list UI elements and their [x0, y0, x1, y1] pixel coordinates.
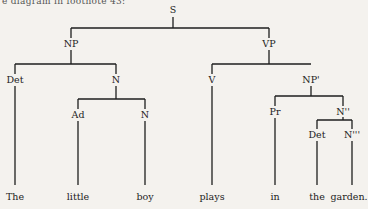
- node-n: N: [112, 75, 120, 85]
- node-v: V: [209, 75, 216, 85]
- leaf-the: The: [6, 192, 24, 202]
- node-n-sub: N: [141, 110, 149, 120]
- node-ad: Ad: [72, 110, 85, 120]
- leaf-the-2: the: [309, 192, 325, 202]
- node-s: S: [170, 5, 177, 15]
- leaf-little: little: [67, 192, 89, 202]
- node-n-triple-prime: N''': [344, 130, 360, 140]
- node-pr: Pr: [270, 107, 281, 117]
- node-np: NP: [64, 39, 79, 49]
- leaf-garden: garden.: [330, 192, 367, 202]
- node-det-sub: Det: [308, 130, 325, 140]
- node-n-double-prime: N'': [336, 107, 350, 117]
- node-np-prime: NP': [302, 75, 319, 85]
- leaf-plays: plays: [199, 192, 224, 202]
- node-vp: VP: [262, 39, 275, 49]
- node-det: Det: [6, 75, 23, 85]
- leaf-in: in: [270, 192, 279, 202]
- leaf-boy: boy: [136, 192, 153, 202]
